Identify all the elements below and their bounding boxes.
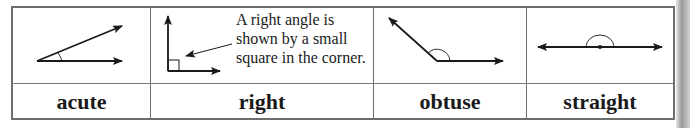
right-angle-icon bbox=[168, 16, 232, 71]
obtuse-angle-icon bbox=[389, 18, 503, 61]
acute-angle-icon bbox=[37, 26, 122, 61]
straight-angle-icon bbox=[538, 35, 662, 49]
